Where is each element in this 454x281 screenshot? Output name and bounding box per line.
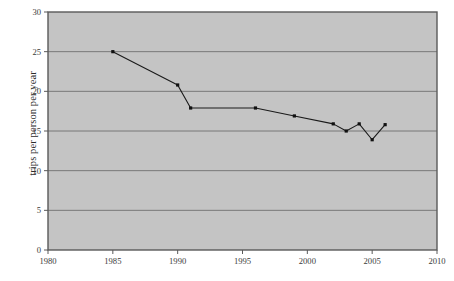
data-point-marker [345, 129, 348, 132]
data-point-marker [176, 83, 179, 86]
data-point-marker [189, 106, 192, 109]
chart-figure: trips per person per year 051015202530 1… [0, 0, 454, 281]
data-point-marker [111, 50, 114, 53]
x-tick-label: 2005 [364, 256, 381, 266]
line-chart-plot: 051015202530 198019851990199520002005201… [0, 0, 454, 281]
y-tick-label: 25 [32, 47, 41, 57]
y-tick-label: 5 [37, 205, 41, 215]
data-point-marker [371, 138, 374, 141]
y-tick-label: 30 [32, 7, 41, 17]
y-axis-ticks: 051015202530 [32, 7, 48, 255]
y-tick-label: 0 [37, 245, 41, 255]
data-point-marker [254, 106, 257, 109]
x-tick-label: 1995 [234, 256, 251, 266]
x-tick-label: 1990 [169, 256, 186, 266]
data-point-marker [293, 114, 296, 117]
y-tick-label: 10 [32, 166, 41, 176]
x-tick-label: 2000 [299, 256, 316, 266]
x-tick-label: 1980 [39, 256, 56, 266]
data-point-marker [358, 122, 361, 125]
data-point-marker [332, 122, 335, 125]
data-point-marker [384, 123, 387, 126]
x-tick-label: 1985 [104, 256, 121, 266]
y-tick-label: 20 [32, 86, 41, 96]
y-tick-label: 15 [32, 126, 41, 136]
x-axis-ticks: 1980198519901995200020052010 [39, 250, 445, 266]
x-tick-label: 2010 [428, 256, 445, 266]
